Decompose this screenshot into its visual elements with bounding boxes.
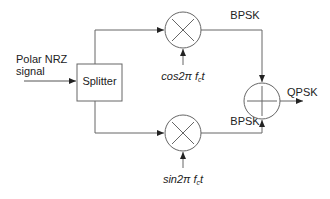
bottom-carrier-label: sin2π fct — [163, 173, 204, 186]
input-label-line2: signal — [16, 65, 45, 77]
top-branch-line — [95, 30, 164, 64]
top-carrier-label: cos2π fct — [161, 70, 205, 83]
adder — [244, 83, 280, 119]
top-multiplier — [165, 12, 201, 48]
splitter-block: Splitter — [77, 64, 122, 101]
input-signal: Polar NRZ signal — [16, 53, 76, 81]
top-bpsk-line — [201, 30, 262, 82]
input-label-line1: Polar NRZ — [16, 53, 68, 65]
bottom-multiplier — [165, 115, 201, 151]
bottom-branch-line — [95, 101, 164, 133]
output-label: QPSK — [287, 86, 318, 98]
splitter-label: Splitter — [82, 75, 117, 87]
top-bpsk-label: BPSK — [230, 9, 260, 21]
qpsk-modulator-diagram: Polar NRZ signal Splitter cos2π fct sin2… — [0, 0, 330, 199]
